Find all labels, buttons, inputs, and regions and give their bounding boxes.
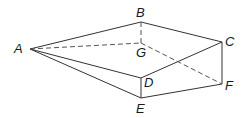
vertex-label-a: A <box>14 42 23 55</box>
vertex-label-b: B <box>136 6 145 19</box>
hidden-edge-ag <box>30 43 141 49</box>
vertex-label-e: E <box>136 102 145 115</box>
hidden-edges <box>30 22 222 84</box>
solid-edges <box>30 22 222 98</box>
solid-edge-bc <box>141 22 222 42</box>
vertex-label-g: G <box>136 46 146 59</box>
solid-edge-cd <box>141 42 222 78</box>
solid-edge-ab <box>30 22 141 49</box>
diagram-canvas <box>0 0 246 118</box>
vertex-label-f: F <box>225 79 233 92</box>
vertex-label-d: D <box>144 76 153 89</box>
vertex-label-c: C <box>225 35 234 48</box>
